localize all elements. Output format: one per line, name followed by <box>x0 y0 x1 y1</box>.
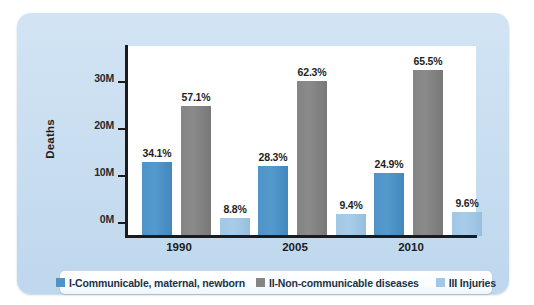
bar-slot-2010-communicable: 24.9% <box>374 46 404 236</box>
bar-1990-injuries[interactable] <box>220 218 250 236</box>
y-tick-label-10m: 10M <box>68 166 114 178</box>
legend-label: II-Non-communicable diseases <box>269 277 419 289</box>
x-axis-label-1990: 1990 <box>134 241 224 253</box>
bar-value-label: 9.6% <box>439 197 495 209</box>
bar-slot-2005-injuries: 9.4% <box>336 46 366 236</box>
bar-group-1990: 34.1% 57.1% 8.8% <box>134 46 246 236</box>
y-tick-label-0m-wrap: 0M <box>64 213 114 225</box>
bar-2010-noncommunicable[interactable] <box>413 70 443 236</box>
bar-2010-injuries[interactable] <box>452 212 482 236</box>
y-tick-label-20m: 20M <box>68 119 114 131</box>
bar-value-label: 65.5% <box>400 55 456 67</box>
x-axis-label-2005: 2005 <box>250 241 340 253</box>
bar-group-2010: 24.9% 65.5% 9.6% <box>366 46 478 236</box>
bar-2005-noncommunicable[interactable] <box>297 81 327 236</box>
y-tick-label-20m-wrap: 20M <box>64 119 114 131</box>
y-tick-label-0m: 0M <box>68 213 114 225</box>
plot-area: 34.1% 57.1% 8.8% 28.3% <box>128 46 476 236</box>
legend-label: I-Communicable, maternal, newborn <box>69 277 245 289</box>
y-axis-line <box>125 45 128 237</box>
bar-2005-communicable[interactable] <box>258 166 288 236</box>
bar-slot-1990-injuries: 8.8% <box>220 46 250 236</box>
bar-1990-communicable[interactable] <box>142 162 172 236</box>
bar-value-label: 34.1% <box>129 147 185 159</box>
bar-group-2005: 28.3% 62.3% 9.4% <box>250 46 362 236</box>
bar-slot-2010-injuries: 9.6% <box>452 46 482 236</box>
legend-label: III Injuries <box>449 277 496 289</box>
legend-item-communicable[interactable]: I-Communicable, maternal, newborn <box>56 277 245 289</box>
y-axis-title: Deaths <box>44 104 56 174</box>
legend-swatch-icon <box>436 278 445 287</box>
chart-figure: Deaths 0M 10M 20M 30M 34.1% <box>0 0 534 305</box>
bar-value-label: 62.3% <box>284 66 340 78</box>
chart-legend: I-Communicable, maternal, newborn II-Non… <box>60 271 492 294</box>
legend-item-noncommunicable[interactable]: II-Non-communicable diseases <box>256 277 419 289</box>
bar-slot-1990-communicable: 34.1% <box>142 46 172 236</box>
bar-value-label: 24.9% <box>361 158 417 170</box>
y-tick-label-30m-wrap: 30M <box>64 72 114 84</box>
bar-2005-injuries[interactable] <box>336 214 366 236</box>
legend-swatch-icon <box>56 278 65 287</box>
bar-value-label: 28.3% <box>245 151 301 163</box>
y-tick-label-10m-wrap: 10M <box>64 166 114 178</box>
legend-item-injuries[interactable]: III Injuries <box>436 277 496 289</box>
bar-2010-communicable[interactable] <box>374 173 404 236</box>
x-axis-label-2010: 2010 <box>366 241 456 253</box>
bar-1990-noncommunicable[interactable] <box>181 106 211 236</box>
chart-panel: Deaths 0M 10M 20M 30M 34.1% <box>17 13 509 294</box>
y-tick-label-30m: 30M <box>68 72 114 84</box>
bar-value-label: 57.1% <box>168 91 224 103</box>
legend-swatch-icon <box>256 278 265 287</box>
x-axis-line <box>125 235 477 238</box>
